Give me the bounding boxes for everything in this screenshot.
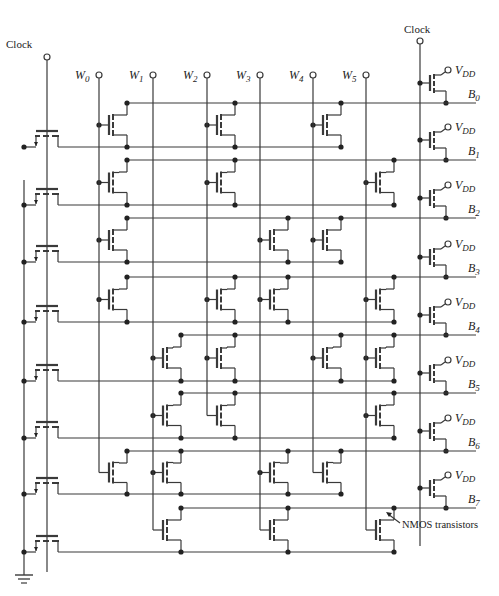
junction-dot xyxy=(285,215,290,220)
vdd-terminal-icon xyxy=(445,357,451,363)
junction-dot xyxy=(391,549,396,554)
junction-dot xyxy=(391,435,396,440)
arrow-icon xyxy=(34,547,38,551)
bit-line-label-b5: B5 xyxy=(468,377,480,393)
word-line-terminal-icon xyxy=(257,72,263,78)
wire xyxy=(441,362,445,365)
junction-dot xyxy=(417,312,422,317)
junction-dot xyxy=(124,144,129,149)
junction-dot xyxy=(124,319,129,324)
vdd-label: VDD xyxy=(455,353,476,369)
junction-dot xyxy=(232,378,237,383)
junction-dot xyxy=(21,549,26,554)
junction-dot xyxy=(285,448,290,453)
junction-dot xyxy=(285,505,290,510)
junction-dot xyxy=(21,319,26,324)
junction-dot xyxy=(391,157,396,162)
junction-dot xyxy=(338,448,343,453)
junction-dot xyxy=(178,448,183,453)
junction-dot xyxy=(232,319,237,324)
arrow-icon xyxy=(34,433,38,437)
junction-dot xyxy=(124,215,129,220)
vdd-terminal-icon xyxy=(445,67,451,73)
arrow-icon xyxy=(34,317,38,321)
junction-dot xyxy=(391,319,396,324)
arrow-icon xyxy=(34,200,38,204)
junction-dot xyxy=(232,435,237,440)
word-line-terminal-icon xyxy=(150,72,156,78)
junction-dot xyxy=(232,157,237,162)
rom-circuit-diagram: W0W1W2W3W4W5ClockClockVDDB0VDDB1VDDB2VDD… xyxy=(0,0,499,596)
junction-dot xyxy=(285,259,290,264)
bit-line-label-b2: B2 xyxy=(468,202,480,218)
junction-dot xyxy=(178,435,183,440)
junction-dot xyxy=(417,254,422,259)
vdd-label: VDD xyxy=(455,178,476,194)
bit-line-label-b4: B4 xyxy=(468,319,480,335)
junction-dot xyxy=(232,144,237,149)
bit-line-label-b0: B0 xyxy=(468,87,480,103)
junction-dot xyxy=(178,491,183,496)
junction-dot xyxy=(285,491,290,496)
junction-dot xyxy=(417,485,422,490)
word-line-terminal-icon xyxy=(310,72,316,78)
nmos-transistors-annotation: NMOS transistors xyxy=(402,519,478,530)
wire xyxy=(441,304,445,307)
vdd-terminal-icon xyxy=(445,124,451,130)
bit-line-label-b7: B7 xyxy=(468,492,480,508)
vdd-label: VDD xyxy=(455,120,476,136)
arrow-icon xyxy=(34,257,38,261)
junction-dot xyxy=(21,378,26,383)
bit-line-label-b6: B6 xyxy=(468,435,480,451)
clock-label-right: Clock xyxy=(404,23,431,35)
junction-dot xyxy=(232,100,237,105)
junction-dot xyxy=(391,332,396,337)
junction-dot xyxy=(178,378,183,383)
clock-terminal-icon xyxy=(417,38,423,44)
junction-dot xyxy=(232,202,237,207)
junction-dot xyxy=(338,215,343,220)
word-line-label-w0: W0 xyxy=(75,68,90,84)
junction-dot xyxy=(178,332,183,337)
junction-dot xyxy=(338,259,343,264)
clock-terminal-icon xyxy=(44,54,50,60)
junction-dot xyxy=(391,274,396,279)
arrow-icon xyxy=(34,489,38,493)
junction-dot xyxy=(124,491,129,496)
vdd-label: VDD xyxy=(455,237,476,253)
junction-dot xyxy=(178,505,183,510)
junction-dot xyxy=(338,491,343,496)
word-line-label-w1: W1 xyxy=(129,68,144,84)
junction-dot xyxy=(124,157,129,162)
junction-dot xyxy=(21,259,26,264)
wire xyxy=(441,246,445,249)
junction-dot xyxy=(338,332,343,337)
vdd-terminal-icon xyxy=(445,415,451,421)
junction-dot xyxy=(124,259,129,264)
junction-dot xyxy=(124,274,129,279)
junction-dot xyxy=(338,144,343,149)
junction-dot xyxy=(178,390,183,395)
junction-dot xyxy=(391,390,396,395)
junction-dot xyxy=(417,80,422,85)
junction-dot xyxy=(417,195,422,200)
arrow-icon xyxy=(34,142,38,146)
word-line-label-w5: W5 xyxy=(342,68,357,84)
junction-dot xyxy=(285,549,290,554)
junction-dot xyxy=(232,390,237,395)
junction-dot xyxy=(124,448,129,453)
circuit-schematic: W0W1W2W3W4W5ClockClockVDDB0VDDB1VDDB2VDD… xyxy=(0,0,499,596)
junction-dot xyxy=(391,505,396,510)
junction-dot xyxy=(124,202,129,207)
bit-line-label-b3: B3 xyxy=(468,261,480,277)
clock-label-left: Clock xyxy=(6,38,33,50)
wire xyxy=(441,420,445,423)
junction-dot xyxy=(338,100,343,105)
vdd-terminal-icon xyxy=(445,472,451,478)
vdd-label: VDD xyxy=(455,63,476,79)
bit-line-label-b1: B1 xyxy=(468,144,480,160)
arrow-icon xyxy=(34,376,38,380)
junction-dot xyxy=(124,100,129,105)
wire xyxy=(441,72,445,75)
junction-dot xyxy=(21,144,26,149)
